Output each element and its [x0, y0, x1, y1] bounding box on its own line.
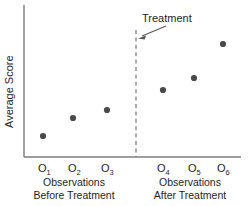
y-axis-label: Average Score	[3, 55, 15, 128]
x-tick-label-o3: O3	[101, 162, 114, 177]
caption-before-treatment: Observations Before Treatment	[14, 176, 134, 201]
x-tick-label-o6: O6	[217, 162, 230, 177]
treatment-label: Treatment	[142, 12, 192, 24]
interrupted-time-series-chart: Average Score Treatment O1 O2 O3 O4 O	[0, 0, 248, 206]
caption-after-line2: After Treatment	[132, 189, 248, 202]
x-tick-label-o5: O5	[188, 162, 201, 177]
data-point-o6	[220, 41, 226, 47]
caption-after-line1: Observations	[132, 176, 248, 189]
caption-before-line2: Before Treatment	[14, 189, 134, 202]
x-tick-label-o1: O1	[38, 162, 51, 177]
data-point-o4	[160, 87, 166, 93]
caption-after-treatment: Observations After Treatment	[132, 176, 248, 201]
data-point-o2	[70, 115, 76, 121]
treatment-arrow-shaft	[142, 26, 166, 36]
data-point-o1	[40, 133, 46, 139]
data-point-o5	[191, 75, 197, 81]
x-tick-label-o4: O4	[157, 162, 170, 177]
x-tick-label-o2: O2	[68, 162, 81, 177]
caption-before-line1: Observations	[14, 176, 134, 189]
data-point-o3	[104, 107, 110, 113]
